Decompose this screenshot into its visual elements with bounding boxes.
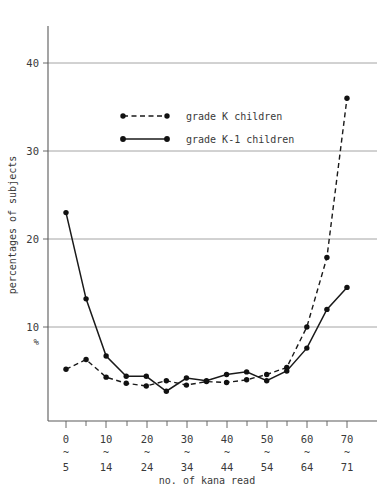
data-point <box>344 96 349 101</box>
x-tick-label-bot-6: 34 <box>181 461 194 473</box>
data-point <box>83 357 88 362</box>
legend-label-grade-k1: grade K-1 children <box>186 134 294 145</box>
x-tick-separator-12: ~ <box>304 447 310 458</box>
data-point <box>264 372 269 377</box>
series-grade-k1 <box>63 210 349 394</box>
x-tick-label-top-2: 10 <box>100 433 113 445</box>
data-point <box>103 353 108 358</box>
x-tick-label-top-12: 60 <box>301 433 314 445</box>
x-tick-label-bot-8: 44 <box>221 461 234 473</box>
x-tick-label-top-10: 50 <box>261 433 274 445</box>
x-tick-label-top-0: 0 <box>63 433 69 445</box>
x-tick-separator-6: ~ <box>184 447 190 458</box>
x-tick-separator-2: ~ <box>103 447 109 458</box>
x-tick-label-top-4: 20 <box>141 433 154 445</box>
data-point <box>164 389 169 394</box>
data-point <box>264 378 269 383</box>
data-point <box>224 380 229 385</box>
x-tick-label-top-6: 30 <box>181 433 194 445</box>
data-point <box>344 285 349 290</box>
legend-marker-dashed-right <box>164 113 169 118</box>
y-tick-label-40: 40 <box>26 57 39 69</box>
data-point <box>304 324 309 329</box>
percent-unit-label: % <box>34 337 40 347</box>
y-tick-label-30: 30 <box>26 145 39 157</box>
y-tick-label-20: 20 <box>26 233 39 245</box>
gridlines <box>48 63 377 327</box>
legend-item-grade-k[interactable]: grade K children <box>120 111 282 122</box>
data-point <box>124 374 129 379</box>
kana-reading-line-chart: 40 30 20 10 % percentages of subjects <box>0 0 383 487</box>
x-tick-label-bot-14: 71 <box>341 461 354 473</box>
y-tick-label-10: 10 <box>26 321 39 333</box>
data-point <box>63 367 68 372</box>
x-tick-marks <box>66 421 347 428</box>
x-tick-label-bot-12: 64 <box>301 461 314 473</box>
x-tick-separator-0: ~ <box>63 447 69 458</box>
x-tick-label-top-8: 40 <box>221 433 234 445</box>
data-point <box>103 374 108 379</box>
y-axis-title: percentages of subjects <box>7 156 18 294</box>
data-point <box>304 345 309 350</box>
data-point <box>324 307 329 312</box>
chart-canvas: 40 30 20 10 % percentages of subjects <box>0 0 383 487</box>
y-tick-marks <box>43 63 48 327</box>
data-point <box>144 374 149 379</box>
data-point <box>144 383 149 388</box>
data-point <box>184 375 189 380</box>
data-point <box>164 378 169 383</box>
x-tick-separator-14: ~ <box>344 447 350 458</box>
legend: grade K children grade K-1 children <box>120 111 294 145</box>
x-axis-title: no. of kana read <box>159 475 255 486</box>
legend-marker-solid-left <box>120 136 126 142</box>
x-tick-label-bot-2: 14 <box>100 461 113 473</box>
legend-marker-solid-right <box>164 136 170 142</box>
data-point <box>184 382 189 387</box>
x-tick-separator-8: ~ <box>224 447 230 458</box>
y-tick-labels: 40 30 20 10 % <box>26 57 39 347</box>
data-point <box>124 381 129 386</box>
legend-marker-dashed-left <box>120 113 125 118</box>
data-point <box>224 372 229 377</box>
data-point <box>63 210 68 215</box>
data-point <box>204 378 209 383</box>
data-point <box>324 255 329 260</box>
data-point <box>244 377 249 382</box>
x-tick-label-bot-0: 5 <box>63 461 69 473</box>
x-tick-labels: 0 ~ 5 10 ~ 14 20 ~ 24 30 ~ 34 40 ~ 44 50… <box>63 433 353 473</box>
x-tick-separator-4: ~ <box>144 447 150 458</box>
legend-item-grade-k1[interactable]: grade K-1 children <box>120 134 294 145</box>
legend-label-grade-k: grade K children <box>186 111 282 122</box>
x-tick-label-bot-10: 54 <box>261 461 274 473</box>
x-tick-separator-10: ~ <box>264 447 270 458</box>
data-point <box>244 369 249 374</box>
x-tick-label-top-14: 70 <box>341 433 354 445</box>
data-point <box>83 296 88 301</box>
data-point <box>284 368 289 373</box>
x-tick-label-bot-4: 24 <box>141 461 154 473</box>
